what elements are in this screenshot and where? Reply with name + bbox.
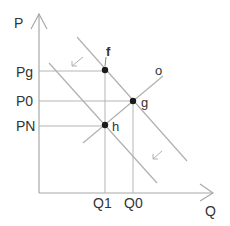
price-label-pn: PN — [16, 118, 35, 134]
point-g — [130, 98, 136, 104]
point-label-g: g — [141, 95, 148, 110]
price-label-pg: Pg — [16, 64, 33, 80]
point-h — [102, 122, 108, 128]
point-label-f: f — [106, 44, 111, 59]
point-label-h: h — [112, 119, 119, 134]
quantity-label-q0: Q0 — [124, 195, 143, 211]
supply-curve-o — [83, 76, 163, 143]
supply-demand-diagram: P Q Pg P0 PN Q1 Q0 f g h o — [0, 0, 230, 226]
shift-arrow-lower-icon — [153, 151, 162, 159]
shift-arrow-upper-icon — [72, 57, 83, 66]
point-f — [102, 67, 108, 73]
price-label-p0: P0 — [16, 93, 33, 109]
axes — [31, 14, 213, 201]
quantity-label-q1: Q1 — [93, 195, 112, 211]
shift-arrows — [72, 57, 162, 159]
y-axis-label: P — [14, 15, 23, 31]
x-axis-label: Q — [205, 203, 216, 219]
curves — [49, 37, 187, 183]
curve-label-o: o — [155, 63, 162, 78]
